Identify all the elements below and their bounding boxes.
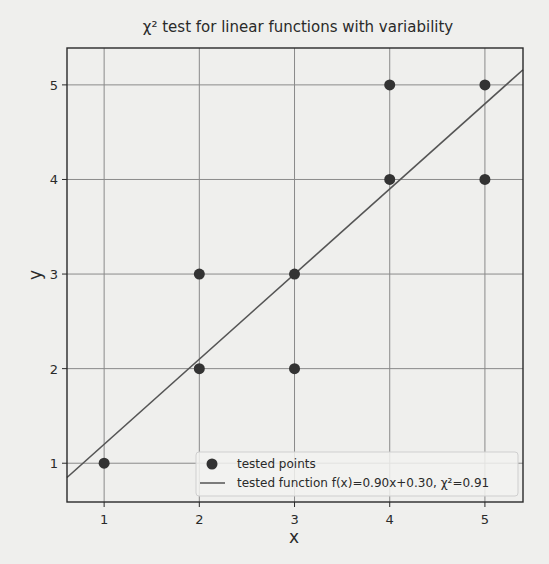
- data-point: [384, 79, 395, 90]
- data-point: [289, 269, 300, 280]
- y-ticks: 12345: [50, 78, 67, 471]
- data-point: [384, 174, 395, 185]
- x-tick-label: 1: [100, 512, 108, 527]
- y-tick-label: 3: [50, 267, 58, 282]
- data-point: [194, 363, 205, 374]
- data-point: [479, 79, 490, 90]
- x-tick-label: 3: [290, 512, 298, 527]
- legend-marker-points: [207, 459, 218, 470]
- data-point: [289, 363, 300, 374]
- x-axis-label: x: [289, 527, 299, 547]
- legend-label-function: tested function f(x)=0.90x+0.30, χ²=0.91: [237, 476, 489, 490]
- data-point: [99, 458, 110, 469]
- y-tick-label: 1: [50, 456, 58, 471]
- x-tick-label: 4: [386, 512, 394, 527]
- y-axis-label: y: [25, 270, 45, 280]
- x-tick-label: 5: [481, 512, 489, 527]
- chart: χ² test for linear functions with variab…: [0, 0, 549, 564]
- chart-title: χ² test for linear functions with variab…: [143, 18, 454, 36]
- y-tick-label: 4: [50, 172, 58, 187]
- y-tick-label: 2: [50, 362, 58, 377]
- x-tick-label: 2: [195, 512, 203, 527]
- y-tick-label: 5: [50, 78, 58, 93]
- data-point: [479, 174, 490, 185]
- legend-label-points: tested points: [237, 457, 316, 471]
- legend: tested points tested function f(x)=0.90x…: [196, 452, 518, 496]
- data-point: [194, 269, 205, 280]
- x-ticks: 12345: [100, 502, 489, 527]
